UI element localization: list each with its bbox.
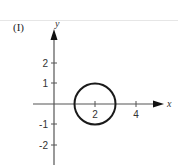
y-tick-label: 1 (42, 78, 48, 89)
x-tick-label: 4 (133, 109, 139, 120)
y-tick-label: -2 (39, 140, 48, 151)
y-axis-arrow-icon (51, 29, 58, 40)
y-tick-label: 2 (42, 58, 48, 69)
chart-plot: y x 2 1 -1 -2 2 4 (0, 0, 178, 165)
x-tick-label: 2 (92, 109, 98, 120)
x-axis-label: x (166, 98, 172, 109)
x-axis-arrow-icon (153, 101, 164, 108)
y-axis-label: y (54, 18, 60, 29)
y-tick-label: -1 (39, 119, 48, 130)
